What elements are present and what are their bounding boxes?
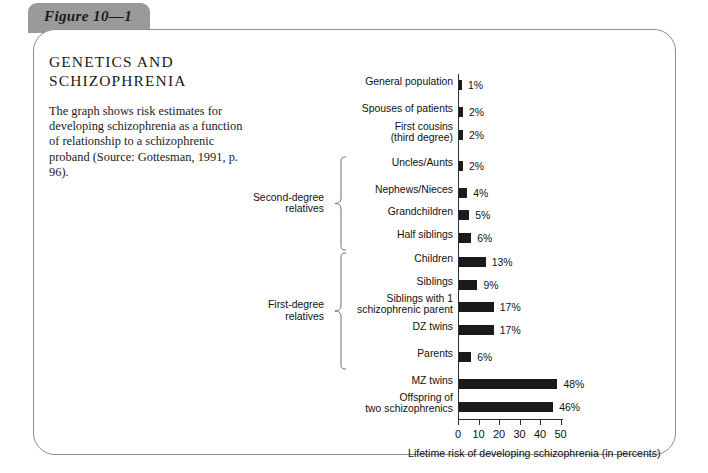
bar — [459, 352, 471, 362]
bar — [459, 210, 469, 220]
bar-value-label: 1% — [468, 81, 483, 91]
x-tick — [458, 420, 459, 425]
x-tick-label: 50 — [546, 428, 576, 440]
bar — [459, 302, 494, 312]
bar-category-label: Offspring of two schizophrenics — [213, 393, 453, 414]
bar — [459, 325, 494, 335]
figure-tab-label: Figure 10—1 — [44, 8, 132, 25]
chart-y-axis — [458, 74, 459, 419]
bar-value-label: 2% — [469, 162, 484, 172]
bar-value-label: 17% — [500, 303, 521, 313]
bar-value-label: 6% — [477, 234, 492, 244]
x-tick — [479, 420, 480, 425]
bar — [459, 188, 467, 198]
bar-value-label: 6% — [477, 353, 492, 363]
group-bracket-icon — [332, 252, 348, 370]
group-bracket-label: First-degree relatives — [214, 299, 324, 322]
bar-category-label: General population — [213, 77, 453, 88]
bar-category-label: First cousins (third degree) — [213, 122, 453, 143]
x-tick — [499, 420, 500, 425]
bar-chart: 01020304050 General population1%Spouses … — [34, 30, 677, 456]
group-bracket-label: Second-degree relatives — [214, 192, 324, 215]
bar-value-label: 9% — [483, 281, 498, 291]
bar-value-label: 2% — [469, 131, 484, 141]
bar — [459, 161, 463, 171]
bar — [459, 80, 462, 90]
group-bracket-icon — [332, 156, 348, 251]
figure-card: GENETICS AND SCHIZOPHRENIA The graph sho… — [33, 29, 676, 455]
bar-value-label: 13% — [492, 258, 513, 268]
bar — [459, 379, 557, 389]
bar — [459, 402, 553, 412]
bar-value-label: 2% — [469, 108, 484, 118]
bar-value-label: 17% — [500, 326, 521, 336]
bar — [459, 130, 463, 140]
bar — [459, 107, 463, 117]
bar-category-label: Spouses of patients — [213, 104, 453, 115]
bar-value-label: 5% — [475, 211, 490, 221]
chart-x-axis-title: Lifetime risk of developing schizophreni… — [408, 447, 661, 459]
bar-value-label: 4% — [473, 189, 488, 199]
chart-x-axis — [458, 419, 563, 420]
x-tick — [520, 420, 521, 425]
bar-category-label: MZ twins — [213, 376, 453, 387]
bar-value-label: 46% — [559, 403, 580, 413]
x-tick — [561, 420, 562, 425]
bar — [459, 257, 486, 267]
bar-value-label: 48% — [563, 380, 584, 390]
bar — [459, 280, 477, 290]
x-tick — [540, 420, 541, 425]
bar — [459, 233, 471, 243]
